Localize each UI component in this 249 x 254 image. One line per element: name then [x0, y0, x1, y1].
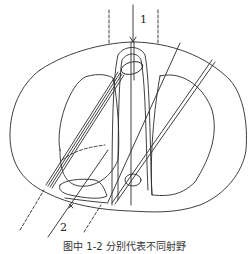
cross-section-drawing: [0, 0, 249, 254]
radiation-field-diagram: 1 2 图中 1-2 分别代表不同射野: [0, 0, 249, 254]
beam-2-label: 2: [60, 222, 67, 233]
top-small-ellipse: [120, 59, 144, 76]
right-organ-outline: [151, 75, 214, 196]
beam-bundle-line-3: [50, 74, 122, 187]
bottom-small-ellipse: [125, 174, 141, 186]
beam-bundle-line-1: [46, 72, 118, 185]
beam-2-axis: [48, 150, 108, 237]
beam-bundle-line-6: [112, 60, 212, 203]
beam-1-label: 1: [140, 14, 147, 25]
figure-caption: 图中 1-2 分别代表不同射野: [0, 242, 249, 252]
field-2-left-border: [20, 190, 44, 230]
beam-bundle-line-2: [48, 73, 120, 186]
field-2-right-border: [84, 205, 101, 232]
lower-left-contour: [59, 179, 107, 198]
beam-bundle-line-7: [115, 62, 215, 204]
beam-bundle-line-4: [52, 75, 124, 188]
